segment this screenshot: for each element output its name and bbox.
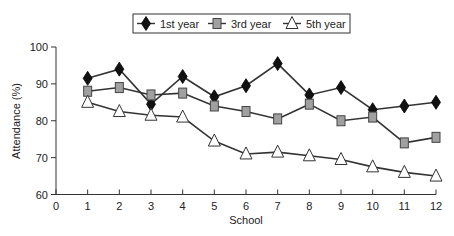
- square-marker-icon: [305, 99, 313, 109]
- diamond-marker-icon: [337, 81, 346, 95]
- x-tick-label: 5: [211, 200, 217, 212]
- square-marker-icon: [115, 83, 123, 93]
- legend-label: 3rd year: [231, 18, 272, 30]
- x-tick-label: 8: [306, 200, 312, 212]
- diamond-marker-icon: [242, 79, 251, 93]
- axes: 607080901000123456789101112: [30, 41, 442, 212]
- x-tick-label: 11: [399, 200, 410, 212]
- diamond-marker-icon: [273, 57, 282, 71]
- legend-item-1st-year: 1st year: [137, 17, 199, 31]
- attendance-line-chart: 1st year3rd year5th year 607080901000123…: [0, 0, 454, 236]
- x-tick-label: 12: [430, 200, 442, 212]
- square-marker-icon: [274, 114, 282, 124]
- triangle-marker-icon: [82, 95, 94, 107]
- square-marker-icon: [432, 132, 440, 142]
- x-tick-label: 0: [53, 200, 59, 212]
- series-line: [88, 64, 436, 110]
- square-marker-icon: [210, 101, 218, 111]
- diamond-marker-icon: [115, 62, 124, 76]
- x-tick-label: 1: [85, 200, 91, 212]
- x-tick-label: 4: [180, 200, 186, 212]
- data-series: [82, 57, 442, 181]
- y-tick-label: 80: [36, 115, 48, 127]
- square-marker-icon: [147, 90, 155, 100]
- legend-item-5th-year: 5th year: [283, 17, 346, 30]
- legend-label: 5th year: [306, 18, 346, 30]
- square-marker-icon: [179, 88, 187, 98]
- series-3rd-year: [88, 88, 436, 143]
- x-tick-label: 3: [148, 200, 154, 212]
- y-tick-label: 70: [36, 152, 48, 164]
- square-marker-icon: [213, 19, 221, 29]
- square-marker-icon: [369, 112, 377, 122]
- triangle-marker-icon: [208, 134, 220, 146]
- x-tick-label: 7: [275, 200, 281, 212]
- diamond-marker-icon: [178, 70, 187, 84]
- y-tick-label: 90: [36, 78, 48, 90]
- x-tick-label: 2: [116, 200, 122, 212]
- x-tick-label: 10: [367, 200, 379, 212]
- square-marker-icon: [400, 138, 408, 148]
- triangle-marker-icon: [272, 145, 284, 157]
- diamond-marker-icon: [432, 95, 441, 109]
- x-axis-label: School: [229, 214, 263, 226]
- x-tick-label: 6: [243, 200, 249, 212]
- diamond-marker-icon: [400, 99, 409, 113]
- series-line: [88, 88, 436, 143]
- square-marker-icon: [337, 116, 345, 126]
- legend-item-3rd-year: 3rd year: [208, 18, 272, 30]
- series-5th-year: [88, 102, 436, 176]
- x-tick-label: 9: [338, 200, 344, 212]
- diamond-marker-icon: [83, 71, 92, 85]
- legend-label: 1st year: [160, 18, 199, 30]
- y-tick-label: 60: [36, 189, 48, 201]
- y-tick-label: 100: [30, 41, 48, 53]
- series-line: [88, 102, 436, 176]
- y-axis-label: Attendance (%): [10, 83, 22, 159]
- square-marker-icon: [242, 107, 250, 117]
- series-1st-year: [88, 64, 436, 110]
- legend: 1st year3rd year5th year: [133, 14, 350, 33]
